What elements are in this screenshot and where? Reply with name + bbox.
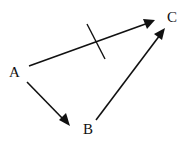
edge-a-to-c — [29, 19, 155, 66]
edge-line-b-c — [96, 35, 160, 120]
directed-graph-diagram: A B C — [0, 0, 186, 142]
node-label-b: B — [83, 121, 93, 137]
edge-line-a-b — [27, 82, 64, 120]
arrowhead-icon — [154, 28, 165, 40]
cross-out-mark — [87, 24, 105, 59]
arrowhead-icon — [59, 113, 70, 126]
node-label-a: A — [9, 64, 20, 80]
edge-a-to-b — [27, 82, 70, 126]
edge-b-to-c — [96, 28, 165, 120]
node-label-c: C — [167, 9, 177, 25]
